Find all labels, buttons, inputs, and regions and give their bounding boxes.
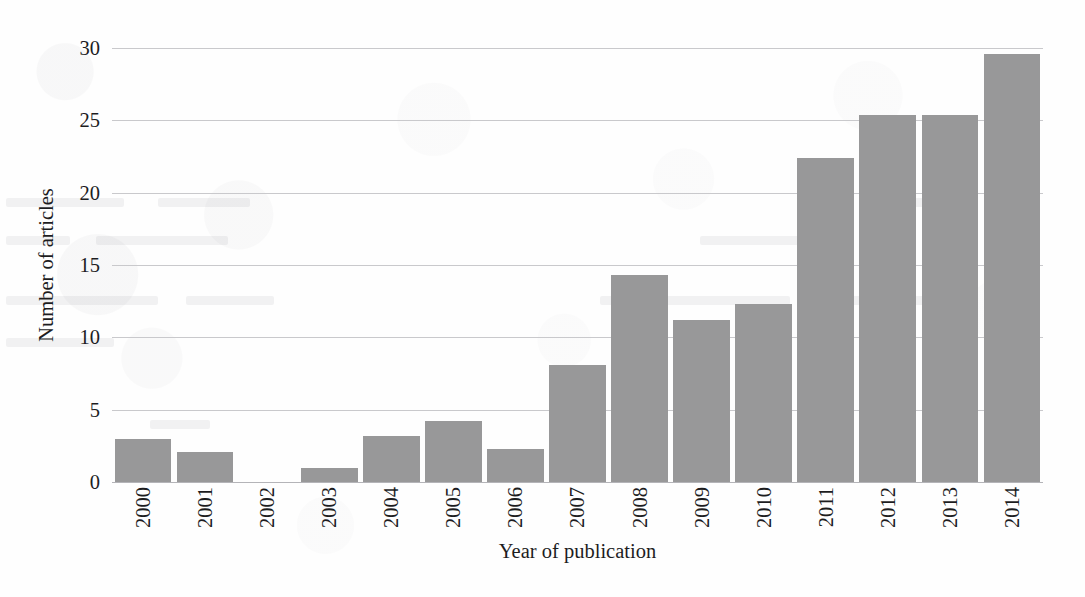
bar [487,449,544,482]
x-tick-label: 2006 [505,487,526,528]
x-tick-label: 2003 [319,487,340,528]
x-tick-label: 2000 [133,487,154,528]
y-tick-label: 30 [44,38,100,59]
x-tick-label: 2014 [1002,487,1023,528]
x-tick-label: 2011 [816,487,837,527]
x-tick-label: 2004 [381,487,402,528]
bar [735,304,792,482]
bar [859,115,916,482]
x-tick-label: 2013 [940,487,961,528]
y-tick-label: 10 [44,327,100,348]
y-tick-label: 0 [44,472,100,493]
y-tick-label: 15 [44,255,100,276]
chart-page: Number of articles 051015202530 20002001… [0,0,1085,597]
bar [984,54,1041,482]
plot-area [112,48,1043,482]
y-axis-ticks: 051015202530 [34,48,100,482]
bar [301,468,358,482]
x-tick-label: 2012 [878,487,899,528]
y-tick-label: 25 [44,110,100,131]
bar [549,365,606,482]
x-axis-title: Year of publication [112,540,1043,563]
y-tick-label: 20 [44,182,100,203]
y-tick-label: 5 [44,399,100,420]
x-tick-label: 2008 [629,487,650,528]
x-tick-label: 2009 [691,487,712,528]
gridline [112,482,1043,483]
bar [797,158,854,482]
x-tick-label: 2007 [567,487,588,528]
bar [673,320,730,482]
x-tick-label: 2010 [753,487,774,528]
bar [611,275,668,482]
x-tick-label: 2005 [443,487,464,528]
bar [922,115,979,482]
bar [425,421,482,482]
gridline [112,48,1043,49]
bar [363,436,420,482]
bar [177,452,234,482]
bar [115,439,172,482]
x-tick-label: 2001 [195,487,216,528]
x-tick-label: 2002 [257,487,278,528]
